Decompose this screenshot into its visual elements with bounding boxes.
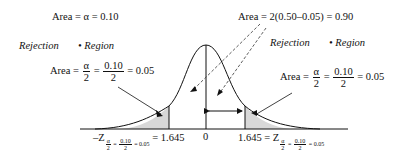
label-rejection-left: Rejection (19, 41, 59, 52)
label-area-alpha: Area = α = 0.10 (52, 12, 119, 23)
tail-value: = 0.05 (127, 65, 154, 76)
left-z-value: = 1.645 (152, 132, 184, 143)
dashed-arrowhead-1-icon (190, 86, 197, 92)
label-right-critical-z: 1.645 = Zα2 = 0.102 = 0.05 (238, 133, 324, 151)
dashed-pointer-2 (219, 28, 266, 94)
label-region-right: • Region (329, 38, 365, 49)
label-right-tail-area: Area = α2 = 0.102 = 0.05 (280, 66, 384, 89)
left-tail-region (122, 106, 169, 129)
alpha-over-two: α2 (313, 66, 321, 89)
label-area-center: Area = 2(0.50–0.05) = 0.90 (238, 12, 353, 23)
neg-z: –Z (93, 132, 105, 143)
z-subscript: α2 = 0.102 = 0.05 (105, 138, 150, 152)
left-pointer (118, 87, 161, 114)
right-tail-region (245, 106, 290, 129)
label-rejection-right: Rejection (270, 38, 310, 49)
right-pointer (255, 93, 292, 115)
equals: = (94, 65, 100, 76)
alpha-over-two: α2 (83, 60, 91, 83)
label-zero: 0 (203, 132, 208, 143)
z-subscript: α2 = 0.102 = 0.05 (279, 138, 324, 152)
label-left-tail-area: Area = α2 = 0.102 = 0.05 (50, 60, 154, 83)
area-prefix: Area = (50, 65, 79, 76)
equals: = (324, 71, 330, 82)
tenth-over-two: 0.102 (103, 60, 123, 83)
label-left-critical-z: –Zα2 = 0.102 = 0.05 = 1.645 (93, 133, 184, 151)
tail-value: = 0.05 (357, 71, 384, 82)
label-region-left: • Region (78, 41, 114, 52)
tenth-over-two: 0.102 (333, 66, 353, 89)
right-z-value: 1.645 = (238, 132, 270, 143)
dashed-pointer-1 (193, 24, 260, 90)
area-prefix: Area = (280, 71, 309, 82)
